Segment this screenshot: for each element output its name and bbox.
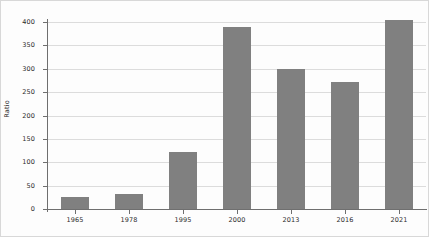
bar <box>331 82 359 209</box>
y-tick-label: 50 <box>1 182 35 190</box>
bar <box>223 27 251 209</box>
x-tick-mark <box>345 210 346 214</box>
y-tick-label: 0 <box>1 205 35 213</box>
bar-chart: Ratio 050100150200250300350400 196519781… <box>0 0 429 237</box>
bars-group <box>48 22 426 209</box>
x-tick-label: 2021 <box>391 216 408 224</box>
y-tick-mark <box>43 186 47 187</box>
bar <box>169 152 197 209</box>
y-tick-mark <box>43 92 47 93</box>
x-tick-label: 1978 <box>121 216 138 224</box>
x-tick-mark <box>399 210 400 214</box>
x-tick-mark <box>183 210 184 214</box>
x-tick-mark <box>129 210 130 214</box>
x-tick-label: 1995 <box>175 216 192 224</box>
y-tick-mark <box>43 139 47 140</box>
x-tick-label: 2016 <box>337 216 354 224</box>
bar <box>277 69 305 209</box>
bar <box>115 194 143 209</box>
y-tick-label: 300 <box>1 65 35 73</box>
x-tick-label: 1965 <box>67 216 84 224</box>
x-tick-mark <box>237 210 238 214</box>
y-tick-mark <box>43 22 47 23</box>
y-tick-label: 150 <box>1 135 35 143</box>
x-tick-label: 2013 <box>283 216 300 224</box>
y-tick-mark <box>43 209 47 210</box>
y-tick-mark <box>43 162 47 163</box>
y-tick-label: 400 <box>1 18 35 26</box>
bar <box>385 20 413 209</box>
x-tick-mark <box>75 210 76 214</box>
y-tick-mark <box>43 69 47 70</box>
y-tick-label: 100 <box>1 158 35 166</box>
y-tick-label: 250 <box>1 88 35 96</box>
y-tick-label: 350 <box>1 41 35 49</box>
y-tick-mark <box>43 45 47 46</box>
bar <box>61 197 89 209</box>
x-tick-mark <box>291 210 292 214</box>
x-tick-label: 2000 <box>229 216 246 224</box>
y-tick-label: 200 <box>1 112 35 120</box>
y-tick-mark <box>43 116 47 117</box>
